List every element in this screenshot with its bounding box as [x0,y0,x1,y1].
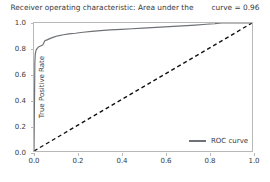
x-tick-label: 0.2 [63,157,93,165]
x-tick-label: 0.4 [107,157,137,165]
y-tick-mark [31,49,34,50]
x-tick-mark [210,153,211,156]
y-tick-label: 0.4 [0,97,26,105]
roc-chart-figure: Receiver operating characteristic: Area … [0,0,270,182]
x-tick-label: 1.0 [239,157,269,165]
x-tick-mark [122,153,123,156]
x-tick-label: 0.6 [151,157,181,165]
y-tick-label: 0.0 [0,149,26,157]
y-tick-label: 0.8 [0,45,26,53]
y-tick-label: 0.6 [0,71,26,79]
chart-title-main: Receiver operating characteristic: Area … [10,3,193,12]
legend-line-roc-curve [189,140,206,141]
x-tick-mark [78,153,79,156]
plot-canvas [34,23,252,151]
y-axis-label: True Positive Rate [38,37,46,137]
x-tick-mark [166,153,167,156]
chart-legend: ROC curve [189,137,248,145]
x-tick-label: 0.8 [195,157,225,165]
y-tick-label: 0.2 [0,123,26,131]
chart-title-auc: curve = 0.96 [211,3,259,12]
chance-diagonal-line [34,23,252,151]
y-tick-mark [31,75,34,76]
plot-area: 0.00.20.40.60.81.0 0.00.20.40.60.81.0 Tr… [33,22,253,152]
x-tick-label: 0.0 [19,157,49,165]
y-tick-mark [31,127,34,128]
chart-title: Receiver operating characteristic: Area … [0,3,270,15]
y-tick-mark [31,101,34,102]
y-tick-mark [31,23,34,24]
y-tick-label: 1.0 [0,19,26,27]
legend-label-roc-curve: ROC curve [211,137,248,145]
x-tick-mark [34,153,35,156]
x-tick-mark [254,153,255,156]
